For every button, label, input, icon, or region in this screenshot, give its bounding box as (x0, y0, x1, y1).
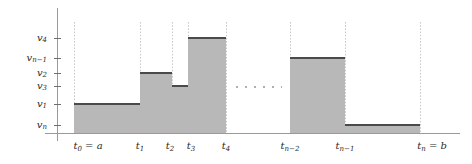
y-tick-v3 (54, 86, 61, 87)
x-label-t4-sub: 4 (226, 145, 230, 153)
y-label-v2: v2 (37, 67, 47, 80)
y-label-v3: v3 (37, 80, 47, 93)
y-axis-line (57, 8, 58, 141)
bar-vn (345, 125, 420, 133)
x-axis-line (45, 133, 460, 134)
x-label-tn-1-sub: n−1 (340, 145, 355, 153)
gridline-tn (420, 22, 421, 133)
x-label-t1-sub: 1 (140, 145, 144, 153)
gridline-t4 (226, 22, 227, 133)
y-label-v1: v1 (37, 98, 47, 111)
x-label-t2: t2 (166, 140, 175, 153)
y-label-v4: v4 (37, 32, 47, 45)
x-label-tn: tn = b (417, 140, 447, 153)
bar-top-vn (345, 124, 420, 126)
x-label-t3-sub: 3 (191, 145, 195, 153)
bar-top-v2 (140, 72, 172, 74)
y-tick-v4 (54, 38, 61, 39)
x-label-tn-1: tn−1 (336, 140, 355, 153)
gridline-tn-1 (345, 22, 346, 133)
y-label-v3-sub: 3 (43, 84, 47, 92)
x-label-tn-2: tn−2 (281, 140, 300, 153)
x-label-t0-suffix: = a (82, 140, 103, 151)
x-label-tn-suffix: = b (426, 140, 447, 151)
bar-v4 (188, 38, 226, 133)
y-label-vn-sub: n (42, 123, 47, 131)
step-function-figure: v4 vn−1 v2 v3 v1 vn t0 = a t1 t2 t3 t4 t… (0, 0, 472, 164)
y-tick-vn (54, 125, 61, 126)
x-label-t0: t0 = a (73, 140, 102, 153)
bar-top-v3 (172, 85, 188, 87)
ellipsis-mid (236, 86, 282, 88)
x-label-t1: t1 (136, 140, 145, 153)
bar-v3 (172, 86, 188, 133)
bar-top-v4 (188, 37, 226, 39)
bar-top-v1 (74, 103, 140, 105)
x-label-t4: t4 (222, 140, 231, 153)
bar-top-vn-1 (290, 57, 345, 59)
bar-v1 (74, 104, 140, 133)
y-label-v4-sub: 4 (43, 36, 47, 44)
y-label-v1-sub: 1 (43, 102, 47, 110)
y-label-vn-1-sub: n−1 (32, 56, 47, 64)
y-label-v2-sub: 2 (43, 71, 47, 79)
y-tick-vn-1 (54, 58, 61, 59)
y-tick-v1 (54, 104, 61, 105)
bar-v2 (140, 73, 172, 133)
y-label-vn: vn (37, 119, 47, 132)
bar-vn-1 (290, 58, 345, 133)
y-label-vn-1: vn−1 (27, 52, 47, 65)
x-label-t2-sub: 2 (170, 145, 174, 153)
x-label-t3: t3 (187, 140, 196, 153)
x-label-tn-2-sub: n−2 (285, 145, 300, 153)
y-tick-v2 (54, 73, 61, 74)
